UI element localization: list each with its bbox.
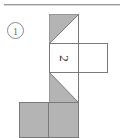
net-face-bottom-right	[48, 102, 79, 138]
lower-face-shaded-triangle-icon	[49, 72, 79, 103]
net-face-bottom-left	[19, 102, 49, 138]
figure-page: 1 2	[0, 0, 124, 138]
top-face-shaded-triangle-icon	[49, 14, 79, 44]
top-divider-rule-shadow	[4, 5, 120, 6]
net-face-middle-right	[78, 43, 108, 73]
face-glyph-container: 2	[49, 43, 79, 73]
cube-net-diagram: 2	[19, 14, 109, 138]
face-glyph-2: 2	[58, 55, 71, 62]
